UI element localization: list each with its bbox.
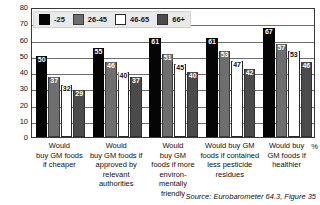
bar-value-label: 57 <box>277 44 286 52</box>
bar-value-label: 47 <box>233 61 242 69</box>
bar: 53 <box>219 51 231 137</box>
bar-value-label: 40 <box>188 72 197 80</box>
x-axis-label-line: less pesticide <box>207 160 252 169</box>
bar: 40 <box>118 72 130 137</box>
bar: 47 <box>231 61 243 137</box>
bar-value-label: 67 <box>264 28 273 36</box>
x-axis-label-line: foods if more <box>151 160 194 169</box>
bar-group: 55464037 <box>89 9 146 137</box>
x-axis-category-label: Wouldbuy GMfoods if moreenviron-mentally… <box>142 141 205 198</box>
x-axis-category-label: Would buy GMfoods if containedless pesti… <box>198 141 261 179</box>
legend-swatch-icon <box>39 14 50 25</box>
x-axis-label-line: buy GM <box>160 151 186 160</box>
bar: 51 <box>162 54 174 137</box>
bar-value-label: 46 <box>107 62 116 70</box>
x-axis-label-line: GM foods if <box>267 151 305 160</box>
x-axis-category-label: Wouldbuy GM foods ifapproved byrelevant … <box>85 141 148 189</box>
bar-value-label: 37 <box>132 77 141 85</box>
bar: 45 <box>174 64 186 137</box>
bar-value-label: 50 <box>37 56 46 64</box>
y-tick-label: 40 <box>20 69 28 77</box>
bar-group: 61514540 <box>146 9 203 137</box>
y-tick-label: 30 <box>20 85 28 93</box>
x-axis-label-line: foods if contained <box>200 151 259 160</box>
bar-group: 67575346 <box>259 9 316 137</box>
x-axis-label-line: Would <box>49 141 70 150</box>
legend-swatch-icon <box>115 14 126 25</box>
legend-item[interactable]: -25 <box>39 14 65 25</box>
legend: -2526-4546-6566+ <box>33 11 191 28</box>
source-note: Source: Eurobarometer 64.3, Figure 35 <box>186 192 317 201</box>
bar: 37 <box>48 77 60 137</box>
x-axis-label-line: Would buy GM <box>205 141 254 150</box>
legend-item-label: 66+ <box>172 16 185 24</box>
x-axis-label-line: buy GM foods if <box>90 151 143 160</box>
x-axis-label-line: environ- <box>159 170 186 179</box>
y-axis: 80706050403020100 <box>0 0 30 145</box>
x-axis-category-label: Would buyGM foods ifhealthier <box>255 141 318 170</box>
bar-value-label: 61 <box>208 38 217 46</box>
y-tick-label: 20 <box>20 102 28 110</box>
bar-value-label: 55 <box>94 48 103 56</box>
bar-value-label: 61 <box>151 38 160 46</box>
legend-item-label: -25 <box>54 16 65 24</box>
x-axis-labels: Wouldbuy GM foodsif cheaperWouldbuy GM f… <box>31 141 315 186</box>
bar: 42 <box>244 69 256 137</box>
legend-swatch-icon <box>73 14 84 25</box>
bar: 50 <box>36 56 48 137</box>
bar: 46 <box>105 62 117 137</box>
x-axis-label-line: Would buy <box>269 141 304 150</box>
bar: 57 <box>276 44 288 137</box>
bar: 61 <box>206 38 218 137</box>
bar-group: 50373229 <box>32 9 89 137</box>
bar: 37 <box>130 77 142 137</box>
x-axis-label-line: friendly <box>161 189 185 198</box>
y-tick-label: 80 <box>20 4 28 12</box>
legend-item[interactable]: 46-65 <box>115 14 149 25</box>
bar: 67 <box>263 28 275 137</box>
y-tick-label: 60 <box>20 37 28 45</box>
bar-value-label: 37 <box>50 77 59 85</box>
bar-value-label: 42 <box>245 69 254 77</box>
x-axis-label-line: approved by <box>96 160 137 169</box>
x-axis-label-line: if cheaper <box>43 160 76 169</box>
bar-value-label: 46 <box>302 62 311 70</box>
bar-value-label: 53 <box>289 51 298 59</box>
bar: 32 <box>61 85 73 137</box>
bar: 53 <box>288 51 300 137</box>
x-axis-label-line: Would <box>106 141 127 150</box>
x-axis-label-line: residues <box>216 170 244 179</box>
x-axis-label-line: healthier <box>272 160 301 169</box>
bar: 40 <box>187 72 199 137</box>
bars-layer: 5037322955464037615145406153474267575346 <box>32 9 314 137</box>
x-axis-label-line: relevant authorities <box>99 170 134 189</box>
bar: 46 <box>301 62 313 137</box>
y-tick-label: 10 <box>20 118 28 126</box>
legend-item[interactable]: 26-45 <box>73 14 107 25</box>
bar: 61 <box>149 38 161 137</box>
x-axis-category-label: Wouldbuy GM foodsif cheaper <box>28 141 91 170</box>
bar-value-label: 53 <box>220 51 229 59</box>
bar: 55 <box>93 48 105 137</box>
bar-value-label: 51 <box>163 54 172 62</box>
bar-value-label: 32 <box>62 85 71 93</box>
legend-item-label: 46-65 <box>130 16 149 24</box>
legend-swatch-icon <box>157 14 168 25</box>
y-tick-label: 50 <box>20 53 28 61</box>
bar-value-label: 29 <box>75 90 84 98</box>
x-axis-label-line: buy GM foods <box>36 151 83 160</box>
bar-value-label: 45 <box>176 64 185 72</box>
bar-chart: 80706050403020100 % 50373229554640376151… <box>0 0 320 205</box>
x-axis-label-line: mentally <box>159 179 187 188</box>
y-tick-label: 70 <box>20 20 28 28</box>
bar-group: 61534742 <box>202 9 259 137</box>
legend-item[interactable]: 66+ <box>157 14 185 25</box>
x-axis-label-line: Would <box>162 141 183 150</box>
bar-value-label: 40 <box>119 72 128 80</box>
legend-item-label: 26-45 <box>88 16 107 24</box>
bar: 29 <box>73 90 85 137</box>
